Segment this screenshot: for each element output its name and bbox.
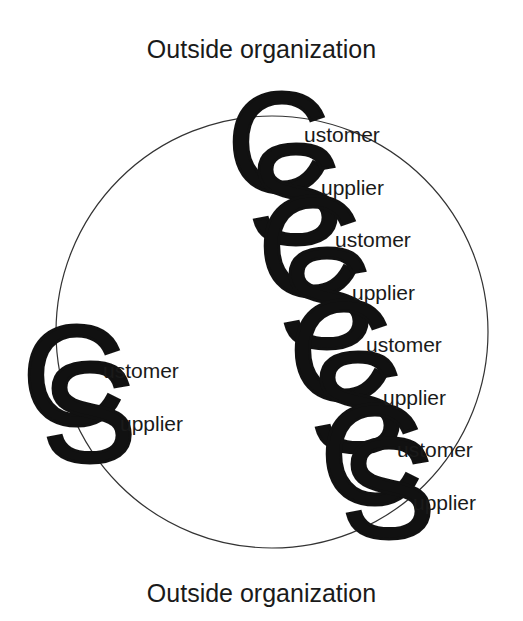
chain-suffix-supplier-1: upplier bbox=[321, 176, 384, 199]
left-customer-supplier-pair: C S ustomer upplier bbox=[22, 296, 183, 492]
chain-suffix-customer-1: ustomer bbox=[304, 123, 380, 146]
chain-suffix-customer-3: ustomer bbox=[366, 333, 442, 356]
customer-suffix: ustomer bbox=[103, 359, 179, 382]
supplier-suffix: upplier bbox=[120, 412, 183, 435]
chain-suffix-supplier-2: upplier bbox=[352, 281, 415, 304]
customer-supplier-chain: C S C S C S C S ustomer upplier ustomer … bbox=[227, 63, 476, 568]
chain-suffix-supplier-4: upplier bbox=[413, 491, 476, 514]
chain-suffix-customer-4: ustomer bbox=[397, 438, 473, 461]
chain-letter-s-4: S bbox=[341, 409, 436, 568]
chain-suffix-customer-2: ustomer bbox=[335, 228, 411, 251]
chain-suffix-supplier-3: upplier bbox=[383, 386, 446, 409]
organization-diagram: C S ustomer upplier C S C S C S C S usto… bbox=[0, 0, 523, 621]
